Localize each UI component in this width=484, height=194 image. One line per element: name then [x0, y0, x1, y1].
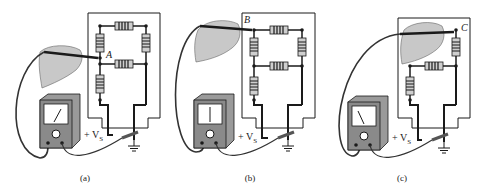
resistor-left-lower [406, 77, 414, 95]
hand-c [401, 23, 444, 64]
resistor-left-lower [96, 75, 104, 93]
ground-symbol-b [282, 140, 294, 151]
panel-c: + VS C (c) [320, 0, 484, 194]
panel-b: + VS B (b) [160, 0, 325, 194]
resistor-middle [115, 60, 133, 68]
resistor-top [115, 22, 133, 30]
voltmeter-a [40, 94, 80, 148]
resistor-left-upper [96, 34, 104, 52]
supply-label-a: + VS [84, 129, 103, 143]
resistor-right-upper [298, 38, 306, 56]
resistor-right-upper [142, 34, 150, 52]
ground-symbol-c [438, 142, 450, 153]
resistor-left-upper [250, 38, 258, 56]
resistor-top [270, 26, 288, 34]
caption-b: (b) [230, 173, 270, 183]
panel-a: + VS A (a) [0, 0, 165, 194]
resistor-right-upper [452, 38, 460, 56]
node-label-a: A [106, 49, 112, 60]
caption-c: (c) [382, 173, 422, 183]
supply-label-b: + VS [238, 131, 257, 145]
caption-a: (a) [65, 173, 105, 183]
voltmeter-b [194, 94, 234, 148]
circuit-diagram-a [0, 0, 165, 194]
circuit-diagram-c [320, 0, 484, 194]
node-label-b: B [244, 14, 250, 25]
resistor-middle [270, 62, 288, 70]
resistor-left-lower [250, 77, 258, 95]
circuit-diagram-b [160, 0, 325, 194]
supply-label-c: + VS [392, 132, 411, 146]
resistor-middle [425, 62, 443, 70]
ground-symbol-a [128, 140, 140, 151]
voltmeter-c [348, 96, 388, 150]
node-label-c: C [461, 22, 468, 33]
